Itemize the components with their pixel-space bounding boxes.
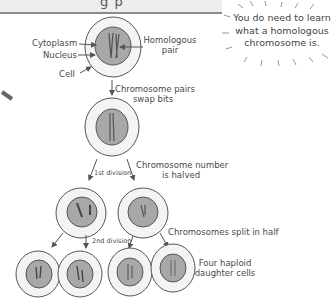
label-swap-line2: swap bits: [115, 94, 191, 104]
label-halved-line1: Chromosome number: [136, 160, 226, 170]
label-homologous-pair: Homologous pair: [142, 35, 198, 55]
label-daughter-cells: Four haploid daughter cells: [192, 258, 258, 278]
daughter-cell-1: [16, 251, 60, 297]
label-swap-line1: Chromosome pairs: [115, 84, 191, 94]
label-chromosome-halved: Chromosome number is halved: [136, 160, 226, 180]
daughter-cell-3: [108, 248, 152, 296]
daughter-cell-2: [58, 251, 102, 297]
pointer-arrow-icon: [2, 92, 12, 99]
crossover-cell: [85, 98, 139, 156]
daughter-cell-4: [151, 244, 195, 292]
label-daughter-line2: daughter cells: [192, 268, 258, 278]
label-homologous-line1: Homologous: [142, 35, 198, 45]
label-first-division: 1st division: [94, 168, 131, 178]
label-swap-bits: Chromosome pairs swap bits: [115, 84, 191, 104]
division1-cell-right: [118, 188, 168, 238]
callout-note: You do need to learn what a homologous c…: [232, 12, 332, 50]
label-cytoplasm: Cytoplasm: [32, 38, 77, 48]
callout-line-3: chromosome is.: [232, 37, 332, 50]
callout-line-1: You do need to learn: [232, 12, 332, 25]
label-cell: Cell: [59, 69, 75, 79]
callout-line-2: what a homologous: [232, 25, 332, 38]
label-second-division: 2nd division: [92, 236, 131, 246]
label-halved-line2: is halved: [136, 170, 226, 180]
division1-cell-left: [56, 188, 106, 238]
label-chromosomes-split: Chromosomes split in half: [168, 227, 279, 237]
label-nucleus: Nucleus: [43, 50, 77, 60]
label-homologous-line2: pair: [142, 45, 198, 55]
label-daughter-line1: Four haploid: [192, 258, 258, 268]
